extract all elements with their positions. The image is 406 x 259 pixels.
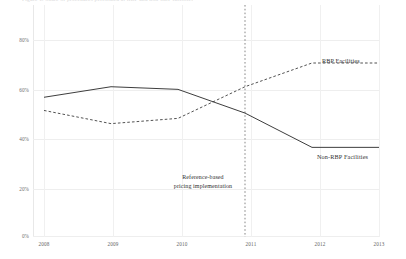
- plot-area: 0% 20% 40% 60% 80% 2008 2009 2010 2011 2…: [33, 5, 380, 237]
- x-tick-label: 2011: [246, 241, 257, 247]
- x-tick-label: 2008: [38, 241, 49, 247]
- annotation-line-2: pricing implementation: [159, 182, 247, 191]
- y-tick-label: 40%: [19, 136, 29, 142]
- y-tick-label: 80%: [19, 37, 29, 43]
- x-tick-label: 2009: [107, 241, 118, 247]
- x-tick-label: 2010: [176, 241, 187, 247]
- reference-line-annotation: Reference-based pricing implementation: [159, 173, 247, 192]
- series-label-rbp-facilities: RBP Facilities: [322, 57, 360, 64]
- figure-caption-clipped: Figure 1. Share of procedures performed …: [22, 0, 193, 3]
- series-rbp-facilities-line: [44, 63, 379, 124]
- y-tick-label: 60%: [19, 87, 29, 93]
- annotation-line-1: Reference-based: [159, 173, 247, 182]
- y-tick-label: 20%: [19, 186, 29, 192]
- series-label-non-rbp-facilities: Non-RBP Facilities: [317, 153, 368, 160]
- series-group: [33, 5, 380, 237]
- x-tick-label: 2013: [373, 241, 384, 247]
- y-tick-label: 0%: [22, 233, 29, 239]
- series-non-rbp-facilities-line: [44, 87, 379, 148]
- x-tick-label: 2012: [314, 241, 325, 247]
- chart-container: Figure 1. Share of procedures performed …: [0, 0, 406, 259]
